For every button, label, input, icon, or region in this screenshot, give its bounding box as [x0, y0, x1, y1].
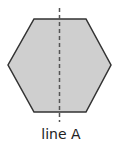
line-a-label: line A: [0, 126, 122, 142]
